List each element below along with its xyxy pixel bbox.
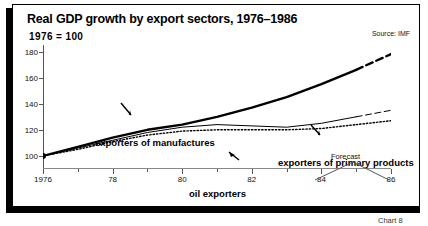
x-tick-mark-minor (147, 169, 148, 172)
y-tick-label: 120 (25, 125, 38, 134)
chart-card: Real GDP growth by export sectors, 1976–… (12, 4, 420, 207)
origin-marker (43, 153, 46, 159)
y-tick-label: 140 (25, 99, 38, 108)
x-tick-label: 1976 (34, 175, 52, 184)
x-tick-label: 82 (247, 175, 256, 184)
x-tick-label: 78 (108, 175, 117, 184)
x-tick-mark (182, 169, 183, 174)
page-title: Real GDP growth by export sectors, 1976–… (27, 12, 297, 26)
forecast-bracket-icon (313, 160, 391, 182)
series-label-oil-exporters: oil exporters (189, 188, 246, 199)
x-tick-mark (43, 169, 44, 174)
series-lines (43, 45, 391, 169)
x-tick-mark (391, 169, 392, 174)
y-tick-label: 160 (25, 73, 38, 82)
plot-area: 100120140160180 19767880828486 exporters… (43, 45, 391, 169)
x-tick-mark-minor (287, 169, 288, 172)
x-tick-label: 80 (178, 175, 187, 184)
series-label-manufactures: exporters of manufactures (95, 137, 215, 148)
y-tick-label: 180 (25, 47, 38, 56)
x-tick-mark-minor (78, 169, 79, 172)
chart-caption: Chart 8 (378, 216, 403, 225)
y-tick-label: 100 (25, 151, 38, 160)
index-base-note: 1976 = 100 (29, 31, 83, 42)
x-tick-mark (252, 169, 253, 174)
source-note: Source: IMF (372, 30, 410, 37)
x-tick-mark (113, 169, 114, 174)
x-tick-mark-minor (217, 169, 218, 172)
